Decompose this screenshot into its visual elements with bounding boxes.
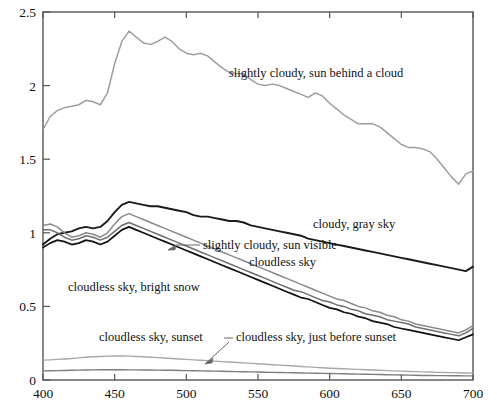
x-tick-label: 650 bbox=[391, 386, 412, 401]
chart-root: 400450500550600650700 00.511.522.5 sligh… bbox=[0, 0, 497, 407]
x-tick-label: 550 bbox=[248, 386, 269, 401]
x-tick-label: 600 bbox=[320, 386, 341, 401]
y-tick-label: 1 bbox=[29, 226, 36, 241]
ann-sun-visible: slightly cloudy, sun visible bbox=[203, 238, 337, 252]
ann-cloudy-gray-sky: cloudy, gray sky bbox=[313, 217, 396, 231]
ann-bright-snow: cloudless sky, bright snow bbox=[68, 280, 200, 294]
y-tick-label: 0 bbox=[29, 373, 36, 388]
ann-cloudless-sky: cloudless sky bbox=[249, 255, 317, 269]
ann-just-before-sunset: cloudless sky, just before sunset bbox=[236, 330, 396, 344]
y-tick-label: 2 bbox=[29, 79, 36, 94]
chart-background bbox=[0, 0, 497, 407]
y-tick-label: 1.5 bbox=[19, 152, 36, 167]
y-tick-label: 2.5 bbox=[19, 5, 36, 20]
x-tick-label: 500 bbox=[176, 386, 197, 401]
x-tick-label: 450 bbox=[105, 386, 126, 401]
ann-sunset: cloudless sky, sunset bbox=[99, 330, 203, 344]
x-tick-label: 700 bbox=[463, 386, 484, 401]
ann-sun-behind-cloud: slightly cloudy, sun behind a cloud bbox=[229, 66, 404, 80]
spectral-irradiance-chart: 400450500550600650700 00.511.522.5 sligh… bbox=[0, 0, 497, 407]
y-tick-label: 0.5 bbox=[19, 299, 36, 314]
x-tick-label: 400 bbox=[33, 386, 54, 401]
